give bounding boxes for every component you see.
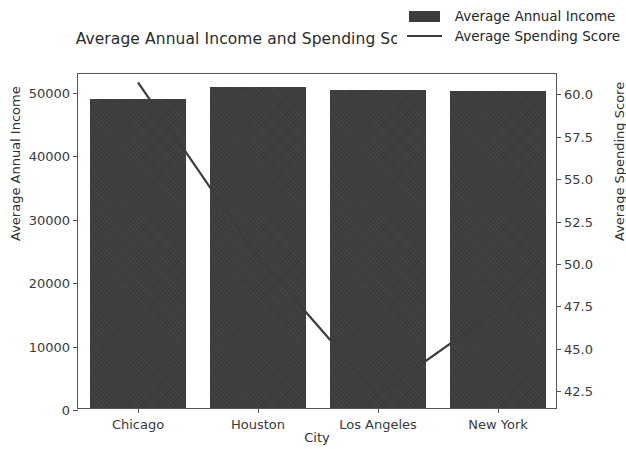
legend-bar-swatch-icon (399, 11, 451, 22)
y-tick-label-left: 10000 (29, 339, 70, 354)
bar-new-york (450, 91, 546, 408)
y-tick-label-left: 0 (62, 403, 70, 418)
y-tick-right (556, 94, 561, 95)
bar-los-angeles (330, 90, 426, 408)
bar-chicago (90, 99, 186, 408)
y-tick-right (556, 179, 561, 180)
x-tick (498, 408, 499, 413)
y-tick-label-right: 50.0 (564, 257, 593, 272)
y-tick-left (73, 410, 78, 411)
y-tick-label-right: 57.5 (564, 129, 593, 144)
y-axis-label-left: Average Annual Income (8, 86, 23, 241)
y-tick-label-left: 20000 (29, 276, 70, 291)
y-tick-label-left: 40000 (29, 149, 70, 164)
y-tick-right (556, 264, 561, 265)
legend-item-spending: Average Spending Score (399, 26, 620, 46)
y-tick-right (556, 349, 561, 350)
y-tick-label-right: 55.0 (564, 172, 593, 187)
x-tick-label: New York (468, 417, 528, 432)
legend-item-label: Average Annual Income (451, 8, 616, 24)
legend-item-income: Average Annual Income (399, 6, 620, 26)
x-axis-label: City (77, 430, 557, 445)
chart-legend: Average Annual Income Average Spending S… (397, 4, 622, 47)
y-tick-label-right: 47.5 (564, 299, 593, 314)
y-tick-label-right: 60.0 (564, 87, 593, 102)
chart-figure: Average Annual Income and Spending Score… (0, 0, 626, 449)
x-tick-label: Houston (231, 417, 285, 432)
legend-line-swatch-icon (399, 35, 451, 37)
x-tick (378, 408, 379, 413)
y-tick-left (73, 93, 78, 94)
y-tick-right (556, 391, 561, 392)
y-tick-left (73, 283, 78, 284)
y-tick-label-right: 42.5 (564, 384, 593, 399)
y-tick-right (556, 222, 561, 223)
x-tick-label: Chicago (112, 417, 164, 432)
x-tick-label: Los Angeles (339, 417, 417, 432)
y-tick-left (73, 220, 78, 221)
y-tick-left (73, 156, 78, 157)
plot-area: 01000020000300004000050000 42.545.047.55… (77, 73, 557, 409)
y-axis-label-right: Average Spending Score (612, 82, 626, 241)
y-tick-right (556, 137, 561, 138)
y-tick-label-left: 30000 (29, 212, 70, 227)
legend-item-label: Average Spending Score (451, 28, 620, 44)
y-tick-left (73, 347, 78, 348)
y-tick-label-left: 50000 (29, 86, 70, 101)
x-tick (258, 408, 259, 413)
y-tick-right (556, 306, 561, 307)
y-tick-label-right: 45.0 (564, 341, 593, 356)
y-tick-label-right: 52.5 (564, 214, 593, 229)
x-tick (138, 408, 139, 413)
bar-houston (210, 87, 306, 408)
